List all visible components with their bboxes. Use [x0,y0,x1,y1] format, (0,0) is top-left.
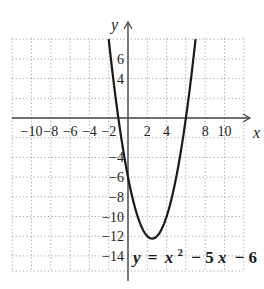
x-tick-label: −6 [63,124,78,139]
x-tick-label: 4 [163,124,170,139]
x-tick-label: −10 [21,124,43,139]
y-axis-label: y [109,16,119,34]
y-tick-label: 6 [117,52,124,67]
x-tick-label: 10 [218,124,232,139]
y-tick-label: −14 [102,249,124,264]
x-tick-label: 2 [144,124,151,139]
x-tick-label: −2 [101,124,116,139]
x-tick-labels: −10−8−6−4−224810 [21,124,232,139]
y-tick-label: −4 [109,150,124,165]
parabola-graph: x y −10−8−6−4−224810 64−4−6−8−10−12−14 y… [0,0,264,289]
x-tick-label: −4 [82,124,97,139]
y-tick-label: −8 [109,190,124,205]
equation-label: y = x 2 − 5 x − 6 [131,241,257,267]
x-tick-label: −8 [43,124,58,139]
x-tick-label: 8 [202,124,209,139]
y-tick-label: −6 [109,170,124,185]
y-tick-label: −10 [102,210,124,225]
y-tick-label: 4 [117,72,124,87]
x-axis-label: x [252,124,260,141]
axes: x y [12,16,260,281]
y-tick-label: −12 [102,229,124,244]
